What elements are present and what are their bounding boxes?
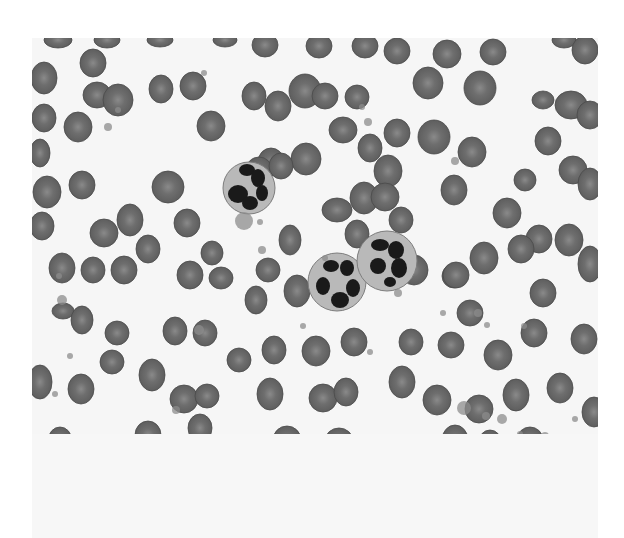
- red-blood-cell: [226, 437, 252, 461]
- platelet: [541, 432, 549, 440]
- red-blood-cell: [384, 119, 410, 147]
- red-blood-cell: [188, 414, 212, 442]
- platelet: [235, 212, 253, 230]
- red-blood-cell: [279, 225, 301, 255]
- red-blood-cell: [341, 328, 367, 356]
- nucleus-lobe: [323, 260, 339, 272]
- red-blood-cell: [256, 258, 280, 282]
- red-blood-cell: [399, 329, 423, 355]
- red-blood-cell: [180, 72, 206, 100]
- red-blood-cell: [284, 275, 310, 307]
- red-blood-cell: [535, 127, 561, 155]
- red-blood-cell: [433, 40, 461, 68]
- red-blood-cell: [517, 427, 543, 453]
- red-blood-cell: [329, 117, 357, 143]
- nucleus-lobe: [384, 277, 396, 287]
- red-blood-cell: [322, 198, 352, 222]
- red-blood-cell: [478, 430, 502, 458]
- red-blood-cell: [484, 340, 512, 370]
- red-blood-cell: [242, 82, 266, 110]
- red-blood-cell: [81, 257, 105, 283]
- nucleus-lobe: [242, 196, 258, 210]
- red-blood-cell: [423, 385, 451, 415]
- red-blood-cell: [389, 366, 415, 398]
- platelet: [56, 273, 62, 279]
- red-blood-cell: [28, 365, 52, 399]
- red-blood-cell: [174, 209, 200, 237]
- red-blood-cell: [358, 134, 382, 162]
- platelet: [359, 104, 365, 110]
- red-blood-cell: [530, 279, 556, 307]
- platelet: [104, 123, 112, 131]
- nucleus-lobe: [388, 241, 404, 259]
- red-blood-cell: [227, 348, 251, 372]
- red-blood-cell: [571, 324, 597, 354]
- platelet: [380, 435, 390, 445]
- red-blood-cell: [345, 85, 369, 109]
- red-blood-cell: [68, 374, 94, 404]
- platelet: [440, 310, 446, 316]
- red-blood-cell: [413, 67, 443, 99]
- red-blood-cell: [30, 139, 50, 167]
- neutrophil: [357, 231, 417, 291]
- nucleus-lobe: [251, 169, 265, 187]
- nucleus-lobe: [346, 279, 360, 297]
- red-blood-cell: [418, 120, 450, 154]
- red-blood-cell: [578, 168, 602, 200]
- red-blood-cell: [547, 373, 573, 403]
- red-blood-cell: [80, 49, 106, 77]
- red-blood-cell: [582, 397, 606, 427]
- red-blood-cell: [64, 112, 92, 142]
- nucleus-lobe: [391, 258, 407, 278]
- red-blood-cell: [31, 62, 57, 94]
- red-blood-cell: [493, 198, 521, 228]
- red-blood-cell: [443, 262, 469, 288]
- red-blood-cell: [503, 379, 529, 411]
- red-blood-cell: [374, 155, 402, 187]
- red-blood-cell: [100, 350, 124, 374]
- platelet: [474, 309, 482, 317]
- neutrophil: [223, 162, 275, 214]
- red-blood-cell: [442, 425, 468, 455]
- platelet: [482, 412, 490, 420]
- platelet: [57, 295, 67, 305]
- platelet: [258, 246, 266, 254]
- platelet: [394, 289, 402, 297]
- red-blood-cell: [257, 378, 283, 410]
- red-blood-cell: [407, 436, 431, 464]
- nucleus-lobe: [256, 185, 268, 201]
- red-blood-cell: [470, 242, 498, 274]
- red-blood-cell: [371, 183, 399, 211]
- red-blood-cell: [213, 33, 237, 47]
- red-blood-cell: [197, 111, 225, 141]
- platelet: [115, 107, 121, 113]
- platelet: [497, 414, 507, 424]
- red-blood-cell: [458, 137, 486, 167]
- platelet: [367, 349, 373, 355]
- red-blood-cell: [163, 317, 187, 345]
- red-blood-cell: [135, 421, 161, 449]
- platelet: [484, 322, 490, 328]
- nucleus-lobe: [316, 277, 330, 295]
- red-blood-cell: [514, 169, 536, 191]
- platelet: [67, 353, 73, 359]
- red-blood-cell: [578, 246, 602, 282]
- red-blood-cell: [147, 33, 173, 47]
- nucleus-lobe: [340, 260, 354, 276]
- red-blood-cell: [71, 306, 93, 334]
- red-blood-cell: [577, 101, 603, 129]
- red-blood-cell: [306, 34, 332, 58]
- platelet: [451, 157, 459, 165]
- red-blood-cell: [302, 336, 330, 366]
- red-blood-cell: [33, 176, 61, 208]
- red-blood-cell: [152, 171, 184, 203]
- red-blood-cell: [245, 286, 267, 314]
- platelet: [201, 70, 207, 76]
- red-blood-cell: [441, 175, 467, 205]
- red-blood-cell: [389, 207, 413, 233]
- red-blood-cell: [52, 303, 74, 319]
- red-blood-cell: [480, 39, 506, 65]
- red-blood-cell: [94, 32, 120, 48]
- red-blood-cell: [291, 143, 321, 175]
- platelet: [52, 391, 58, 397]
